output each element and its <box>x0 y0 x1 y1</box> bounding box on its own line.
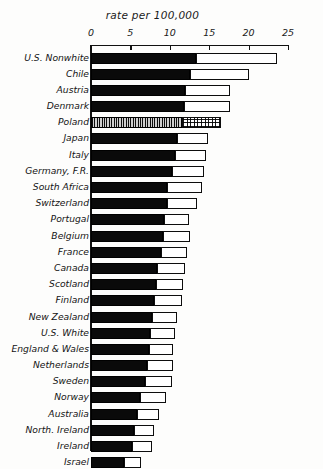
bar-row: Norway <box>0 391 323 407</box>
axis-tick-label: 15 <box>203 27 215 38</box>
bar-segment-light <box>175 150 207 161</box>
bar-row-label: U.S. Nonwhite <box>0 52 89 63</box>
bar-row: Germany, F.R. <box>0 164 323 180</box>
bar-row: Denmark <box>0 100 323 116</box>
bar <box>91 360 173 371</box>
bar <box>91 441 152 452</box>
bar-segment-dark <box>91 85 185 96</box>
bar-segment-dark <box>91 392 140 403</box>
bar-segment-light <box>172 166 204 177</box>
axis-tick-mark <box>249 45 250 50</box>
bar-segment-dark <box>91 101 184 112</box>
axis-tick-label: 0 <box>88 27 94 38</box>
bar-segment-light <box>149 344 173 355</box>
bar-row-label: North. Ireland <box>0 424 89 435</box>
bar-row: Israel <box>0 456 323 469</box>
bar <box>91 457 141 468</box>
bar <box>91 247 187 258</box>
bar <box>91 214 190 225</box>
bar-segment-dark <box>91 360 147 371</box>
bar-row-label: South Africa <box>0 181 89 192</box>
bar-row: Ireland <box>0 440 323 456</box>
bar <box>91 409 159 420</box>
axis-tick-mark <box>288 45 289 50</box>
bar-row: Austria <box>0 83 323 99</box>
bar-segment-dark <box>91 69 190 80</box>
bar-row-label: England & Wales <box>0 343 89 354</box>
bar-row: U.S. White <box>0 326 323 342</box>
bar-row: Portugal <box>0 213 323 229</box>
bar-segment-light <box>152 312 176 323</box>
bar-row-label: Netherlands <box>0 359 89 370</box>
bar-row-label: Belgium <box>0 230 89 241</box>
bar-segment-light <box>137 409 159 420</box>
bar <box>91 231 190 242</box>
bar-segment-light <box>182 117 221 128</box>
bar-row-label: Chile <box>0 68 89 79</box>
bar-segment-dark <box>91 312 152 323</box>
bar-segment-dark <box>91 231 163 242</box>
bar-segment-light <box>156 279 183 290</box>
axis-tick-mark <box>170 45 171 50</box>
bar-row: Poland <box>0 116 323 132</box>
axis-tick-label: 20 <box>243 27 255 38</box>
bar-rows: U.S. NonwhiteChileAustriaDenmarkPolandJa… <box>0 51 323 469</box>
axis-tick-mark <box>209 45 210 50</box>
axis-tick-mark <box>91 45 92 50</box>
bar-row: Sweden <box>0 375 323 391</box>
bar-segment-light <box>164 214 189 225</box>
bar-row: Scotland <box>0 278 323 294</box>
bar-segment-dark <box>91 247 161 258</box>
bar-segment-light <box>154 295 182 306</box>
bar-segment-dark <box>91 457 124 468</box>
bar-segment-light <box>150 328 174 339</box>
bar-row: England & Wales <box>0 342 323 358</box>
bar <box>91 166 204 177</box>
bar-row: North. Ireland <box>0 423 323 439</box>
bar-segment-dark <box>91 279 156 290</box>
bar <box>91 53 277 64</box>
bar-segment-light <box>140 392 166 403</box>
bar-segment-dark <box>91 376 145 387</box>
bar-segment-light <box>124 457 141 468</box>
axis-tick-label: 25 <box>282 27 294 38</box>
bar-segment-light <box>163 231 191 242</box>
bar <box>91 328 175 339</box>
bar-segment-dark <box>91 53 196 64</box>
bar-segment-dark <box>91 263 157 274</box>
bar-row: Japan <box>0 132 323 148</box>
bar-row-label: Japan <box>0 132 89 143</box>
bar-row-label: Canada <box>0 262 89 273</box>
bar-segment-light <box>167 198 197 209</box>
bar-segment-dark <box>91 344 149 355</box>
bar-row-label: Austria <box>0 84 89 95</box>
axis-tick-label: 10 <box>164 27 176 38</box>
bar <box>91 150 206 161</box>
bar <box>91 69 249 80</box>
bar-row: South Africa <box>0 181 323 197</box>
bar <box>91 392 166 403</box>
bar-segment-dark <box>91 166 172 177</box>
bar-row-label: New Zealand <box>0 311 89 322</box>
bar-segment-dark <box>91 214 164 225</box>
axis-tick-mark <box>130 45 131 50</box>
bar <box>91 198 197 209</box>
bar-segment-dark <box>91 441 132 452</box>
bar-row-label: Switzerland <box>0 197 89 208</box>
bar-segment-dark <box>91 150 175 161</box>
bar-row: France <box>0 245 323 261</box>
bar-row-label: Poland <box>0 116 89 127</box>
bar-segment-dark <box>91 295 154 306</box>
bar-segment-light <box>185 85 230 96</box>
bar-row: U.S. Nonwhite <box>0 51 323 67</box>
axis-line <box>91 45 288 46</box>
bar-row: Belgium <box>0 229 323 245</box>
bar-segment-dark <box>91 409 137 420</box>
bar-segment-light <box>134 425 154 436</box>
bar-row: New Zealand <box>0 310 323 326</box>
bar-row-label: Sweden <box>0 375 89 386</box>
bar-segment-light <box>157 263 185 274</box>
bar <box>91 312 177 323</box>
bar-row: Italy <box>0 148 323 164</box>
bar-segment-dark <box>91 328 150 339</box>
